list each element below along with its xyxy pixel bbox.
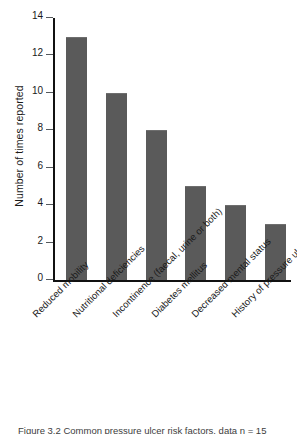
y-axis-tick-label: 12 [32,47,43,58]
y-axis-tick: 6 [46,167,53,168]
y-axis-tick: 0 [46,279,53,280]
y-axis-tick-label: 4 [37,197,43,208]
y-axis-tick-label: 2 [37,235,43,246]
y-axis-tick-label: 8 [37,122,43,133]
bar [66,37,87,280]
y-axis-tick: 2 [46,242,53,243]
y-axis-tick: 8 [46,129,53,130]
y-axis-tick-label: 14 [32,10,43,21]
bar [106,93,127,280]
bar-chart-figure: Number of times reported 02468101214 Red… [0,0,297,434]
y-axis-tick-label: 10 [32,85,43,96]
y-axis-tick-label: 0 [37,272,43,283]
y-axis-tick-label: 6 [37,160,43,171]
y-axis-line [53,18,55,282]
y-axis-tick: 4 [46,204,53,205]
y-axis-title: Number of times reported [13,66,25,226]
x-axis-line [53,280,291,282]
plot-area: 02468101214 [53,18,291,282]
figure-caption: Figure 3.2 Common pressure ulcer risk fa… [18,425,290,434]
y-axis-tick: 10 [46,92,53,93]
y-axis-tick: 14 [46,17,53,18]
y-axis-tick: 12 [46,54,53,55]
